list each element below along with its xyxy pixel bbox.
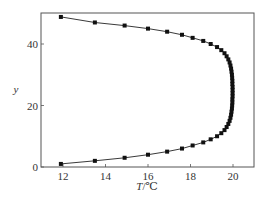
- x-tick-label: 12: [58, 170, 69, 182]
- data-point-marker: [146, 27, 150, 31]
- data-point-marker: [180, 147, 184, 151]
- data-point-marker: [201, 39, 205, 43]
- y-tick-label: 40: [27, 38, 39, 50]
- data-point-marker: [209, 42, 213, 46]
- x-axis-label: T/℃: [136, 180, 158, 192]
- data-point-marker: [215, 134, 219, 138]
- data-point-marker: [59, 15, 63, 19]
- y-tick-label: 0: [33, 161, 39, 173]
- y-axis-label: y: [13, 83, 19, 95]
- data-point-marker: [180, 33, 184, 37]
- data-point-marker: [93, 159, 97, 163]
- data-markers: [59, 15, 235, 166]
- data-point-marker: [165, 30, 169, 34]
- x-tick-label: 20: [228, 170, 240, 182]
- x-tick-label: 14: [100, 170, 112, 182]
- data-point-marker: [146, 153, 150, 157]
- data-point-marker: [123, 24, 127, 28]
- data-point-marker: [209, 137, 213, 141]
- data-line: [61, 17, 233, 164]
- data-point-marker: [123, 156, 127, 160]
- data-point-marker: [165, 150, 169, 154]
- data-point-marker: [93, 20, 97, 24]
- data-point-marker: [215, 45, 219, 49]
- plot-frame: [41, 13, 254, 167]
- chart: 1214161820 02040 T/℃ y: [0, 0, 263, 201]
- data-point-marker: [191, 36, 195, 40]
- x-tick-label: 18: [185, 170, 197, 182]
- data-point-marker: [219, 48, 223, 52]
- data-point-marker: [201, 140, 205, 144]
- y-tick-label: 20: [27, 100, 39, 112]
- data-point-marker: [59, 162, 63, 166]
- data-point-marker: [191, 143, 195, 147]
